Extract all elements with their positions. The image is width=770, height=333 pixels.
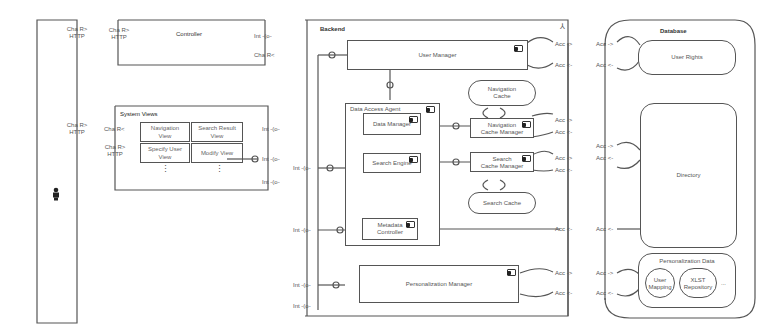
label-line: Cache [469, 93, 535, 100]
port-label: Cha R> [62, 122, 92, 129]
user-manager-component[interactable]: User Manager [347, 40, 528, 70]
label-line: XLST [680, 277, 716, 284]
db-left-port-2: Acc -> [596, 143, 613, 150]
controller-right-port-0: Int -(o- [254, 33, 272, 40]
system-views-right-port-2: Int -(o- [262, 179, 280, 186]
backend-right-port-0: Acc -> [555, 41, 572, 48]
view-label: View [151, 132, 179, 140]
port-label: HTTP [104, 34, 134, 41]
backend-left-port-2: Int -(o- [293, 282, 311, 289]
backend-right-port-4: Acc -> [555, 155, 572, 162]
controller-right-port-1: Cha R< [254, 52, 275, 59]
db-left-port-5: Acc -> [596, 270, 613, 277]
component-icon [522, 155, 531, 162]
system-views-left-port-1: Cha R> HTTP [100, 144, 130, 158]
ellipsis-right: ⋮ [215, 166, 224, 173]
port-label: HTTP [62, 33, 92, 40]
backend-right-port-5: Acc <- [555, 167, 572, 174]
navigation-cache-manager-component[interactable]: Navigation Cache Manager [470, 118, 534, 138]
view-label: Search Result [198, 124, 236, 132]
cache-label: Navigation Cache [469, 86, 535, 100]
cache-label: Search Cache [469, 200, 535, 207]
database-title: Database [660, 28, 687, 34]
view-label: Specify User [148, 145, 182, 153]
component-icon [507, 269, 516, 276]
label-line: Navigation [469, 86, 535, 93]
view-label: Navigation [151, 124, 179, 132]
port-label: Cha R> [104, 27, 134, 34]
component-icon [406, 221, 415, 228]
backend-right-port-6: Acc <- [555, 226, 572, 233]
port-label: HTTP [100, 151, 130, 158]
component-icon [409, 156, 418, 163]
system-views-left-port-0: Cha R< [104, 126, 125, 133]
backend-right-port-7: Acc -> [555, 270, 572, 277]
system-views-right-port-1: Int -(o- [262, 156, 280, 163]
port-label: HTTP [62, 129, 92, 136]
directory-store[interactable]: Directory [640, 103, 737, 248]
backend-right-port-2: Acc -> [555, 117, 572, 124]
ellipsis-left: ⋮ [161, 166, 170, 173]
backend-left-port-3: Int -(o- [293, 303, 311, 310]
store-label: User Rights [639, 54, 735, 61]
controller-left-port: Cha R> HTTP [104, 27, 134, 41]
specify-user-view[interactable]: Specify UserView [140, 143, 190, 163]
db-left-port-3: Acc <- [596, 155, 613, 162]
component-icon [514, 45, 523, 52]
view-label: View [198, 132, 236, 140]
metadata-controller-component[interactable]: Metadata Controller [362, 218, 418, 240]
controller-title: Controller [176, 31, 202, 37]
system-views-title: System Views [120, 111, 158, 117]
db-left-port-6: Acc <- [596, 290, 613, 297]
search-engine-component[interactable]: Search Engine [363, 153, 421, 173]
user-mapping-store[interactable]: User Mapping [645, 268, 675, 298]
backend-right-port-8: Acc <- [555, 290, 572, 297]
db-left-port-0: Acc -> [596, 41, 613, 48]
component-label: Personalization Manager [360, 281, 518, 288]
db-left-port-4: Acc <- [596, 226, 613, 233]
navigation-cache[interactable]: Navigation Cache [468, 80, 536, 106]
store-label: User Mapping [646, 277, 674, 291]
component-icon [522, 121, 531, 128]
label-line: Cache Manager [471, 129, 533, 136]
label-line: Cache Manager [471, 163, 533, 170]
search-cache[interactable]: Search Cache [468, 192, 536, 214]
backend-right-port-1: Acc <- [555, 62, 572, 69]
view-label: View [148, 153, 182, 161]
backend-left-port-1: Int -(o- [293, 227, 311, 234]
data-manager-component[interactable]: Data Manager [363, 113, 421, 135]
fork-icon: ⅄ [560, 23, 565, 30]
store-label: XLST Repository [680, 277, 716, 291]
client-port-top: Cha R> HTTP [62, 26, 92, 40]
label-line: User [646, 277, 674, 284]
backend-right-port-3: Acc <- [555, 129, 572, 136]
port-label: Cha R> [100, 144, 130, 151]
store-label: Directory [641, 172, 736, 179]
label-line: Controller [363, 229, 417, 236]
backend-title: Backend [320, 26, 345, 32]
view-label: Modify View [201, 149, 233, 157]
search-result-view[interactable]: Search ResultView [191, 122, 243, 142]
label-line: Mapping [646, 284, 674, 291]
more-ellipsis: ... [721, 280, 726, 287]
xlst-repository-store[interactable]: XLST Repository [679, 268, 717, 298]
client-actor-icon [51, 187, 61, 201]
backend-left-port-0: Int -(o- [293, 165, 311, 172]
personalization-manager-component[interactable]: Personalization Manager [359, 265, 519, 303]
client-port-mid: Cha R> HTTP [62, 122, 92, 136]
port-label: Cha R> [62, 26, 92, 33]
store-label: Personalization Data [639, 258, 735, 265]
db-left-port-1: Acc <- [596, 62, 613, 69]
user-rights-store[interactable]: User Rights [638, 40, 736, 75]
component-label: User Manager [348, 52, 527, 59]
component-icon [409, 116, 418, 123]
system-views-right-port-0: Int -(o- [262, 126, 280, 133]
navigation-view[interactable]: NavigationView [140, 122, 190, 142]
modify-view[interactable]: Modify View [191, 143, 243, 163]
label-line: Repository [680, 284, 716, 291]
search-cache-manager-component[interactable]: Search Cache Manager [470, 152, 534, 172]
component-label: Data Access Agent [350, 106, 400, 113]
component-icon [426, 106, 435, 113]
